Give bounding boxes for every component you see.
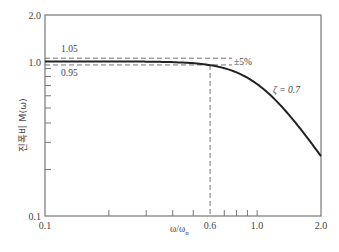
x-tick-10: 1.0: [251, 220, 264, 231]
x-axis-ticks: [109, 210, 257, 216]
upper-band-label: 1.05: [61, 44, 78, 54]
x-tick-01: 0.1: [39, 220, 52, 231]
x-tick-20: 2.0: [315, 220, 328, 231]
y-tick-2: 2.0: [29, 10, 42, 21]
y-tick-1: 1.0: [29, 57, 42, 68]
x-axis-label: ω/ωn: [170, 224, 189, 237]
y-axis-label: 진폭비 M(ω): [15, 85, 29, 165]
amplitude-ratio-chart: 2.0 1.0 0.1 0.1 0.6 1.0 2.0 1.05 0.95 ±5…: [0, 0, 339, 252]
x-axis-label-main: ω/ω: [170, 224, 185, 234]
y-axis-ticks: [45, 69, 51, 170]
lower-band-label: 0.95: [61, 68, 78, 78]
zeta-label: ζ = 0.7: [273, 85, 301, 96]
x-tick-06: 0.6: [204, 220, 217, 231]
plot-frame: [45, 15, 321, 216]
amplitude-curve: [45, 62, 321, 157]
tolerance-percent-label: ±5%: [234, 57, 252, 67]
x-axis-label-sub: n: [185, 229, 189, 237]
